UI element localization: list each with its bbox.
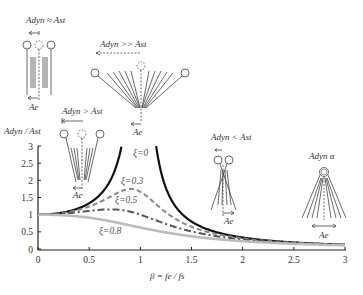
x-tick-label: 0.5: [83, 255, 95, 265]
ae-label: Ae: [72, 190, 83, 200]
sketch-much-greater: Adyn >> Ast Ae: [91, 39, 189, 137]
y-tick-label: 0: [28, 245, 33, 255]
curve-0: [38, 147, 121, 215]
sketch-less: Adyn < Ast Ae: [210, 132, 252, 226]
y-tick-label: 3: [28, 142, 33, 152]
ae-label: Ae: [132, 127, 143, 137]
ann-alpha: Adyn α: [308, 151, 335, 161]
ae-label: Ae: [223, 216, 234, 226]
y-tick-label: 2.5: [21, 159, 33, 169]
ann-greater: Adyn > Ast: [61, 106, 103, 116]
y-tick-label: 1.5: [21, 193, 33, 203]
axes: 00.511.522.53 00.511.522.53: [21, 142, 348, 266]
ann-less: Adyn < Ast: [210, 132, 252, 142]
curves: [38, 146, 345, 245]
curve-label-xi0: ξ=0: [133, 148, 148, 159]
curve-label-xi05: ξ=0.5: [115, 195, 138, 206]
curve-08: [38, 215, 345, 246]
x-tick-label: 1: [138, 255, 143, 265]
sketch-equal: Adyn ≈ Ast Ae: [23, 15, 66, 112]
ann-equal: Adyn ≈ Ast: [25, 15, 66, 25]
y-axis-title: Adyn / Ast: [3, 126, 41, 136]
sketch-greater: Adyn > Ast Ae: [60, 106, 104, 200]
y-tick-label: 2: [28, 176, 33, 186]
ae-label: Ae: [318, 230, 329, 240]
y-tick-label: 0.5: [21, 227, 33, 237]
x-tick-label: 0: [36, 255, 41, 265]
sketch-alpha: Adyn α Ae: [302, 151, 346, 240]
y-tick-label: 1: [28, 210, 33, 220]
x-tick-label: 2: [240, 255, 245, 265]
ae-label: Ae: [28, 102, 39, 112]
curve-label-xi03: ξ=0.3: [121, 176, 144, 187]
x-tick-label: 2.5: [288, 255, 300, 265]
amplification-chart: 00.511.522.53 00.511.522.53 Adyn / Ast β…: [0, 0, 363, 295]
ann-much-greater: Adyn >> Ast: [99, 39, 147, 49]
x-tick-label: 1.5: [186, 255, 198, 265]
x-tick-label: 3: [343, 255, 348, 265]
x-axis-title: β = fe / fs: [149, 271, 185, 281]
curve-label-xi08: ξ=0.8: [99, 226, 122, 237]
